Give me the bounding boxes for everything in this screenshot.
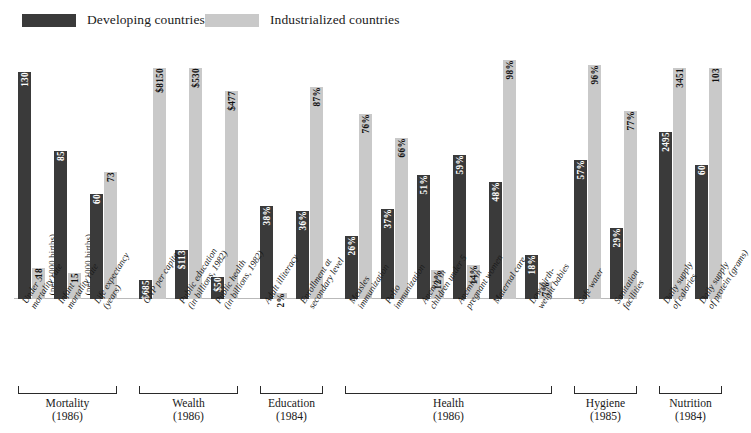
bar-value-label: 85 <box>54 151 67 161</box>
group-bracket <box>345 386 552 394</box>
group-wealth: Wealth(1986) <box>139 386 238 423</box>
group-year: (1984) <box>260 410 323 423</box>
legend-swatch-industrialized <box>205 14 259 27</box>
group-hygiene: Hygiene(1985) <box>574 386 637 423</box>
bar-value-label: 38% <box>260 206 273 226</box>
plot-area: 13018(per 1000 births)8515(per 1000 birt… <box>0 44 624 299</box>
bar-value-label: $477 <box>225 91 238 111</box>
bar-value-label: 130 <box>18 72 31 87</box>
bar-value-label: 66% <box>395 138 408 158</box>
bar-value-label: 29% <box>610 228 623 248</box>
group-year: (1986) <box>345 410 552 423</box>
bar-value-label: 59% <box>453 155 466 175</box>
bar-developing-safe-water: 57% <box>574 160 587 299</box>
category-labels: Under 5mortality rateInfantmortality rat… <box>0 300 624 380</box>
bar-value-label: 37% <box>381 209 394 229</box>
group-name: Health <box>345 397 552 410</box>
group-mortality: Mortality(1986) <box>18 386 117 423</box>
group-name: Wealth <box>139 397 238 410</box>
bar-value-label: 36% <box>296 211 309 231</box>
legend-label-industrialized: Industrialized countries <box>270 12 399 28</box>
bar-value-label: 51% <box>417 175 430 195</box>
group-bracket <box>139 386 238 394</box>
group-bracket <box>18 386 117 394</box>
bar-value-label: 60 <box>90 194 103 204</box>
group-brackets: Mortality(1986)Wealth(1986)Education(198… <box>0 386 624 433</box>
group-name: Nutrition <box>659 397 722 410</box>
bar-value-label: 3451 <box>673 68 686 88</box>
bar-value-label: $530 <box>189 68 202 88</box>
bar-value-label: 18% <box>525 255 538 275</box>
bar-value-label: 2495 <box>659 132 672 152</box>
group-bracket <box>260 386 323 394</box>
bar-value-label: $8150 <box>153 68 166 93</box>
legend-swatch-developing <box>22 14 76 27</box>
group-bracket <box>659 386 722 394</box>
bar-value-label: 60 <box>695 165 708 175</box>
group-name: Education <box>260 397 323 410</box>
group-year: (1984) <box>659 410 722 423</box>
bar-developing-under-5-mortality-rate: 130 <box>18 72 31 299</box>
bar-value-label: 73 <box>104 172 117 182</box>
bar-value-label: 76% <box>359 114 372 134</box>
group-year: (1985) <box>574 410 637 423</box>
group-nutrition: Nutrition(1984) <box>659 386 722 423</box>
bar-developing-daily-supply-of-calories: 2495 <box>659 132 672 299</box>
legend-entry-developing: Developing countries <box>22 12 205 28</box>
bar-value-label: 98% <box>503 60 516 80</box>
group-year: (1986) <box>139 410 238 423</box>
group-name: Mortality <box>18 397 117 410</box>
bar-value-label: 26% <box>345 236 358 256</box>
group-name: Hygiene <box>574 397 637 410</box>
bar-value-label: 57% <box>574 160 587 180</box>
group-health: Health(1986) <box>345 386 552 423</box>
bar-value-label: 96% <box>588 65 601 85</box>
bar-value-label: 77% <box>624 111 637 131</box>
legend-label-developing: Developing countries <box>87 12 205 28</box>
bar-industrialized-safe-water: 96% <box>588 65 601 299</box>
bar-value-label: 48% <box>489 182 502 202</box>
bar-value-label: 103 <box>709 68 722 83</box>
group-bracket <box>574 386 637 394</box>
bar-value-label: 87% <box>310 87 323 107</box>
group-year: (1986) <box>18 410 117 423</box>
group-education: Education(1984) <box>260 386 323 423</box>
chart-legend: Developing countries Industrialized coun… <box>0 12 624 34</box>
legend-entry-industrialized: Industrialized countries <box>205 12 399 28</box>
